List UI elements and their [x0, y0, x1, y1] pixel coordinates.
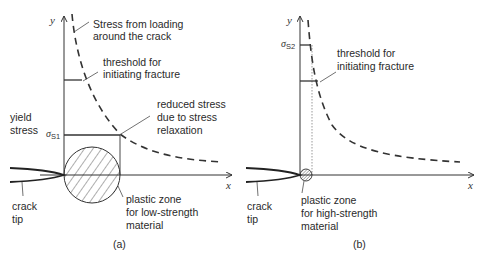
sigma-s2-label: σS2 [281, 38, 295, 51]
y-axis-label: y [49, 14, 55, 26]
leader-line [121, 116, 150, 134]
plastic-zone-circle [64, 147, 120, 203]
reduced-stress-label: relaxation [157, 124, 203, 136]
crack-tip-label: crack [12, 200, 38, 212]
leader-line [302, 181, 304, 193]
stress-curve [308, 20, 460, 162]
yield-stress-label: yield [10, 111, 32, 123]
y-axis-label: y [286, 14, 292, 26]
threshold-label: initiating fracture [337, 60, 414, 72]
crack-tip-label: crack [247, 200, 273, 212]
threshold-label: threshold for [103, 56, 162, 68]
leader-line [74, 22, 89, 32]
leader-line [320, 72, 336, 82]
crack-tip-label: tip [12, 213, 23, 225]
panel-caption: (b) [353, 238, 366, 250]
leader-line [118, 186, 123, 197]
plastic-zone-label: plastic zone [301, 194, 357, 206]
crack-plastic-zone-diagram: y x Stress from loading around the crack… [0, 0, 482, 264]
threshold-label: threshold for [337, 47, 396, 59]
sigma-s1-label: σS1 [46, 128, 60, 141]
plastic-zone-label: for high-strength [301, 207, 378, 219]
x-axis-label: x [225, 179, 231, 191]
plastic-zone-label: for low-strength [126, 206, 199, 218]
reduced-stress-label: due to stress [157, 111, 217, 123]
x-axis-label: x [467, 179, 473, 191]
leader-line [22, 182, 23, 196]
panel-b: y x σS2 threshold for initiating fractur… [246, 14, 474, 250]
stress-loading-label: Stress from loading [93, 18, 184, 30]
plastic-zone-label: material [126, 219, 163, 231]
reduced-stress-label: reduced stress [157, 98, 226, 110]
leader-line [257, 182, 258, 196]
plastic-zone-label: plastic zone [126, 193, 182, 205]
yield-stress-label: stress [10, 124, 38, 136]
panel-a: y x Stress from loading around the crack… [10, 14, 232, 250]
panel-caption: (a) [113, 238, 126, 250]
threshold-label: initiating fracture [103, 68, 180, 80]
plastic-zone-label: material [301, 220, 338, 232]
crack-tip-label: tip [247, 213, 258, 225]
stress-loading-label: around the crack [93, 30, 172, 42]
crack-shape [246, 168, 300, 182]
